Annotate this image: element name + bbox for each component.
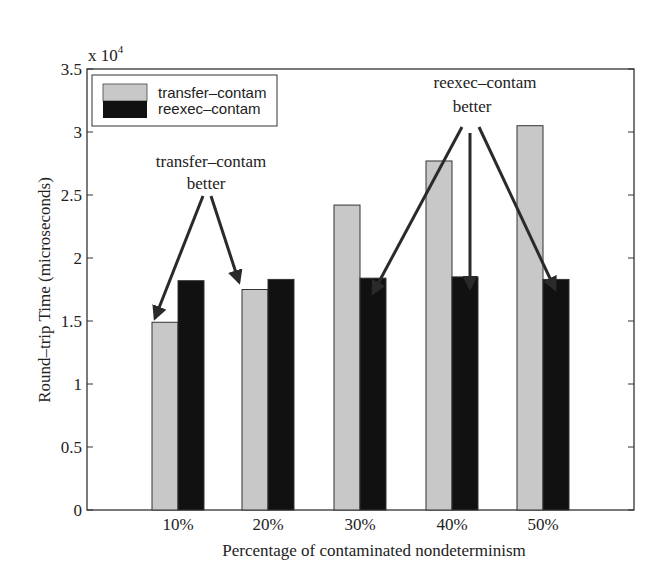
- bar-reexec-contam-20pct: [268, 279, 294, 510]
- bar-transfer-contam-20pct: [242, 290, 268, 511]
- legend-label-reexec-contam: reexec–contam: [158, 100, 261, 117]
- y-tick-label: 2.5: [61, 186, 82, 205]
- y-tick-label: 0.5: [61, 438, 82, 457]
- y-axis-label: Round–trip Time (microseconds): [35, 177, 54, 403]
- y-tick-label: 0: [74, 501, 83, 520]
- x-tick-label: 10%: [162, 515, 193, 534]
- bar-transfer-contam-40pct: [426, 161, 452, 510]
- svg-text:reexec–contam: reexec–contam: [434, 73, 537, 92]
- legend-label-transfer-contam: transfer–contam: [158, 84, 266, 101]
- bar-reexec-contam-30pct: [360, 278, 386, 510]
- svg-text:better: better: [187, 174, 226, 193]
- x-tick-label: 30%: [344, 515, 375, 534]
- y-tick-label: 2: [74, 249, 83, 268]
- bar-transfer-contam-10pct: [152, 322, 178, 510]
- bar-transfer-contam-30pct: [334, 205, 360, 510]
- y-tick-label: 3: [74, 123, 83, 142]
- x-axis-label: Percentage of contaminated nondeterminis…: [222, 541, 526, 560]
- bar-reexec-contam-40pct: [452, 277, 478, 510]
- y-tick-label: 1: [74, 375, 83, 394]
- x-tick-label: 50%: [527, 515, 558, 534]
- legend-swatch-transfer-contam: [103, 84, 147, 101]
- y-axis-multiplier: x 104: [88, 43, 124, 65]
- x-tick-label: 20%: [252, 515, 283, 534]
- legend: transfer–contam reexec–contam: [92, 75, 277, 126]
- bar-reexec-contam-10pct: [178, 281, 204, 510]
- x-axis-tick-labels: 10%20%30%40%50%: [162, 515, 558, 534]
- bar-reexec-contam-50pct: [543, 279, 569, 510]
- x-tick-label: 40%: [436, 515, 467, 534]
- legend-swatch-reexec-contam: [103, 101, 147, 118]
- svg-text:better: better: [453, 97, 492, 116]
- bar-transfer-contam-50pct: [517, 126, 543, 510]
- y-tick-label: 3.5: [61, 60, 82, 79]
- svg-text:transfer–contam: transfer–contam: [156, 152, 266, 171]
- y-tick-label: 1.5: [61, 312, 82, 331]
- bar-chart: 00.511.522.533.5 10%20%30%40%50% x 104 P…: [0, 0, 668, 584]
